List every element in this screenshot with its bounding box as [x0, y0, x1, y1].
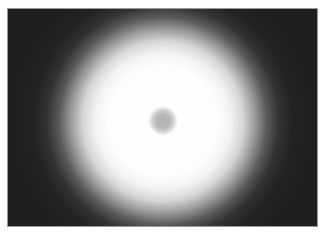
photo-frame	[7, 8, 318, 227]
center-spot	[148, 106, 178, 136]
